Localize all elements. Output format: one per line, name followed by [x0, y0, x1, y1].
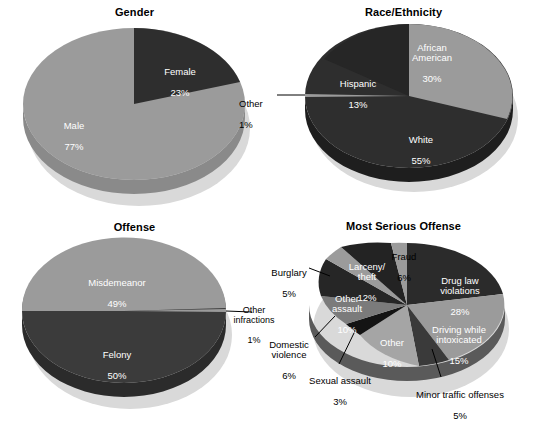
pie-offense: Misdemeanor 49% Felony 50% Other infract… — [0, 219, 269, 438]
chart-panel-gender: Gender Female 23% Male 77% — [0, 0, 269, 219]
pie-race-svg — [269, 0, 538, 219]
pie-race-ethnicity: African American 30% Hispanic 13% White … — [269, 0, 538, 219]
chart-panel-most-serious-offense: Most Serious Offense — [269, 219, 538, 438]
pie-most-serious-offense: Drug law violations 28% Driving while in… — [269, 219, 538, 438]
pie-offense-svg — [0, 219, 269, 438]
pie-gender: Female 23% Male 77% — [0, 0, 269, 219]
slice-misdemeanor-top — [22, 237, 226, 311]
pie-mso-svg — [269, 219, 538, 438]
leader-line-other-infractions — [226, 311, 252, 312]
chart-panel-offense: Offense Misdemeanor 49% Felony 50% Other — [0, 219, 269, 438]
chart-panel-race-ethnicity: Race/Ethnicity African American 30% Hisp… — [269, 0, 538, 219]
pie-gender-svg — [0, 0, 269, 219]
